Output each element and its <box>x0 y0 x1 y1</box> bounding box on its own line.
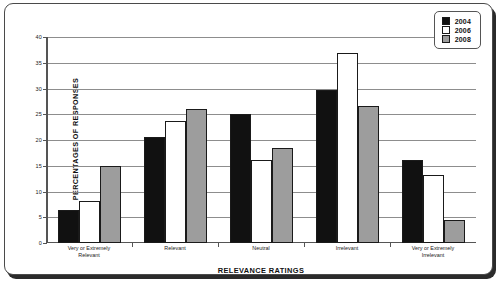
x-axis-title: RELEVANCE RATINGS <box>46 266 476 275</box>
x-axis-category-label: Very or ExtremelyRelevant <box>46 245 132 259</box>
bar-2008-2 <box>186 109 207 243</box>
x-axis-category-label: Irrelevant <box>304 245 390 259</box>
y-axis-tick-label: 15 <box>35 163 42 169</box>
bar-2006-1 <box>79 201 100 243</box>
bar-group <box>46 37 132 243</box>
bar-group <box>132 37 218 243</box>
y-axis-tick-label: 10 <box>35 189 42 195</box>
legend-item: 2008 <box>442 35 471 43</box>
bar-2006-3 <box>251 160 272 243</box>
legend: 2004 2006 2008 <box>434 11 481 49</box>
chart-panel: PERCENTAGES OF RESPONSES 051015202530354… <box>4 3 493 275</box>
bar-2006-5 <box>423 175 444 243</box>
bar-groups <box>46 37 476 243</box>
bar-2008-4 <box>358 106 379 243</box>
y-axis-tick-label: 35 <box>35 60 42 66</box>
gray-swatch-icon <box>442 35 450 43</box>
y-axis-tick-label: 40 <box>35 34 42 40</box>
bar-2008-5 <box>444 220 465 243</box>
figure-caption <box>6 285 336 294</box>
bar-group <box>218 37 304 243</box>
bar-group <box>390 37 476 243</box>
bar-2008-1 <box>100 166 121 243</box>
bar-2004-2 <box>144 137 165 243</box>
x-axis-category-label: Very or ExtremelyIrrelevant <box>390 245 476 259</box>
legend-item-label: 2008 <box>455 36 471 43</box>
bar-2006-2 <box>165 121 186 243</box>
bar-2004-4 <box>316 90 337 243</box>
y-axis-tick-label: 0 <box>39 240 42 246</box>
white-swatch-icon <box>442 26 450 34</box>
legend-item-label: 2004 <box>455 18 471 25</box>
bar-2006-4 <box>337 53 358 243</box>
plot-area: 0510152025303540 <box>46 37 476 243</box>
chart-figure: PERCENTAGES OF RESPONSES 051015202530354… <box>0 0 502 294</box>
y-axis-tick-label: 20 <box>35 137 42 143</box>
bar-2004-3 <box>230 114 251 243</box>
legend-item: 2006 <box>442 26 471 34</box>
x-axis-category-labels: Very or ExtremelyRelevantRelevantNeutral… <box>46 245 476 259</box>
y-axis-tick-label: 5 <box>39 214 42 220</box>
y-axis-tick-label: 30 <box>35 86 42 92</box>
legend-item: 2004 <box>442 17 471 25</box>
x-axis-category-label: Neutral <box>218 245 304 259</box>
black-swatch-icon <box>442 17 450 25</box>
legend-item-label: 2006 <box>455 27 471 34</box>
x-axis-category-label: Relevant <box>132 245 218 259</box>
bar-2004-5 <box>402 160 423 243</box>
bar-2008-3 <box>272 148 293 243</box>
bar-2004-1 <box>58 210 79 243</box>
bar-group <box>304 37 390 243</box>
y-axis-tick-label: 25 <box>35 111 42 117</box>
y-axis-tick-mark <box>43 243 47 244</box>
